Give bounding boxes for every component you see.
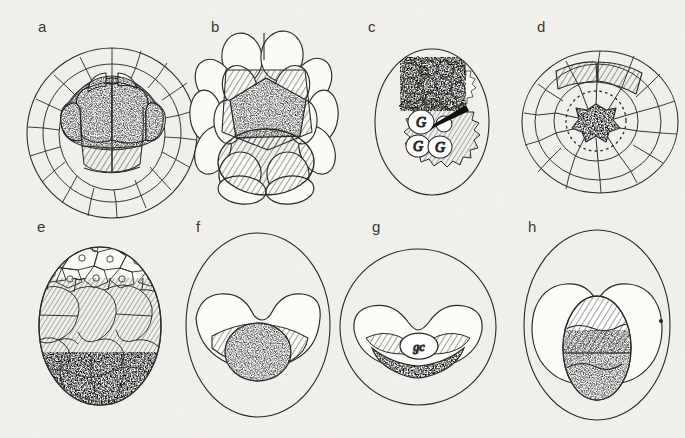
panel-h-label: h: [528, 218, 536, 235]
margin-dot-h: [659, 319, 663, 323]
germ-cell-label-g1: G: [416, 115, 426, 130]
panel-a-label: a: [38, 18, 47, 35]
figure-plate: a: [0, 0, 685, 438]
germ-cell-label-gc: gc: [413, 340, 425, 354]
germ-cell-g: gc: [400, 333, 438, 359]
panel-b-label: b: [211, 18, 219, 35]
hatched-basal-cells-a: [82, 146, 142, 173]
germ-cell-label-g2: G: [413, 139, 423, 154]
panel-d-label: d: [537, 18, 545, 35]
panel-e-label: e: [37, 218, 45, 235]
germ-cell-mass-f: [225, 323, 291, 381]
panel-c-label: c: [368, 18, 376, 35]
panel-g-label: g: [372, 218, 380, 235]
germ-cell-label-g3: G: [435, 140, 445, 155]
hatched-basal-cell-b: [218, 129, 314, 195]
